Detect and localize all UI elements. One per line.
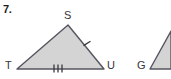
- geometry-figure-panel: 7. S T U G: [0, 0, 171, 79]
- vertex-label-u: U: [107, 60, 115, 71]
- vertex-label-t: T: [5, 60, 12, 71]
- vertex-label-s: S: [64, 10, 71, 21]
- tick-marks-side-su: [84, 41, 91, 45]
- vertex-label-g: G: [137, 60, 146, 71]
- triangle-g-partial-shape: [150, 31, 171, 69]
- triangle-stu-shape: [17, 25, 104, 69]
- problem-number: 7.: [3, 3, 12, 15]
